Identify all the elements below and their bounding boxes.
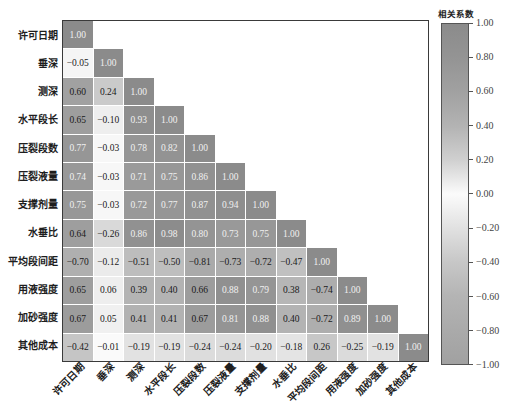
heatmap-cell: 0.81	[216, 305, 246, 332]
y-tick-label: 测深	[0, 78, 58, 106]
heatmap-cell: 1.00	[338, 277, 368, 304]
heatmap-cell: 0.24	[94, 78, 124, 105]
heatmap-cell: 0.80	[185, 220, 215, 247]
x-tick: 垂深	[94, 361, 124, 411]
plot-area: 1.00−0.051.000.600.241.000.65−0.100.931.…	[62, 20, 429, 362]
heatmap-cell: 0.41	[124, 305, 154, 332]
y-tick-label: 许可日期	[0, 22, 58, 50]
heatmap-cell: −0.01	[94, 334, 124, 361]
heatmap-cell: 0.74	[63, 163, 93, 190]
colorbar-tick-label: −0.60	[476, 292, 499, 302]
tick-mark	[469, 125, 473, 126]
x-tick: 其他成本	[397, 361, 427, 411]
y-tick-label: 垂深	[0, 50, 58, 78]
heatmap-cell: 1.00	[63, 21, 93, 48]
heatmap-cell: 0.75	[246, 220, 276, 247]
colorbar-tick-label: 1.00	[476, 18, 494, 28]
heatmap-cell: 0.75	[63, 191, 93, 218]
x-tick-label: 垂深	[95, 361, 117, 383]
y-tick-label: 压裂段数	[0, 135, 58, 163]
tick-mark	[469, 330, 473, 331]
heatmap-cell: 1.00	[368, 305, 398, 332]
heatmap-cell: −0.24	[185, 334, 215, 361]
heatmap-cell: 0.66	[185, 277, 215, 304]
x-tick-label: 许可日期	[50, 361, 86, 397]
heatmap-cell: 0.89	[338, 305, 368, 332]
x-axis-labels: 许可日期 垂深 测深 水平段长 压裂段数 压裂液量 支撑剂量 水垂比 平均段间距…	[64, 361, 428, 411]
heatmap-cell: 0.82	[155, 135, 185, 162]
heatmap-cell: −0.47	[277, 248, 307, 275]
heatmap-cell: 0.40	[277, 305, 307, 332]
y-tick-label: 支撑剂量	[0, 191, 58, 219]
heatmap-cell: 0.94	[216, 191, 246, 218]
y-tick-label: 其他成本	[0, 332, 58, 360]
heatmap-cell: 1.00	[124, 78, 154, 105]
heatmap-cell: 0.67	[185, 305, 215, 332]
heatmap-cell: −0.73	[216, 248, 246, 275]
tick-mark	[469, 159, 473, 160]
y-tick-label: 平均段间距	[0, 248, 58, 276]
colorbar-tick-label: 0.80	[476, 52, 494, 62]
heatmap-cell: 0.72	[124, 191, 154, 218]
heatmap-cell: 1.00	[246, 191, 276, 218]
heatmap-cell: −0.03	[94, 191, 124, 218]
heatmap-cell: 1.00	[277, 220, 307, 247]
y-axis-labels: 许可日期 垂深 测深 水平段长 压裂段数 压裂液量 支撑剂量 水垂比 平均段间距…	[0, 22, 58, 361]
heatmap-cell: 0.77	[63, 135, 93, 162]
colorbar-tick-label: 0.40	[476, 121, 494, 131]
tick-mark	[469, 193, 473, 194]
heatmap-cell: 0.87	[185, 191, 215, 218]
heatmap-cell: 0.38	[277, 277, 307, 304]
heatmap-cell: 1.00	[307, 248, 337, 275]
y-tick-label: 水垂比	[0, 219, 58, 247]
heatmap-cell: 0.79	[246, 277, 276, 304]
y-tick-label: 用液强度	[0, 276, 58, 304]
heatmap-cell: 0.39	[124, 277, 154, 304]
colorbar-tick-label: −0.80	[476, 326, 499, 336]
heatmap-cell: 0.98	[155, 220, 185, 247]
heatmap-cell: −0.05	[63, 49, 93, 76]
heatmap-cell: 1.00	[94, 49, 124, 76]
y-tick-label: 加砂强度	[0, 304, 58, 332]
heatmap-cell: 0.06	[94, 277, 124, 304]
tick-mark	[469, 91, 473, 92]
heatmap-cell: 1.00	[216, 163, 246, 190]
x-tick-label: 测深	[125, 361, 147, 383]
heatmap-cell: 1.00	[155, 106, 185, 133]
heatmap-cell: −0.42	[63, 334, 93, 361]
heatmap-cell: 0.71	[124, 163, 154, 190]
heatmap-cell: 0.65	[63, 277, 93, 304]
heatmap-cell: −0.20	[246, 334, 276, 361]
heatmap-cell: −0.03	[94, 135, 124, 162]
heatmap-cell: −0.72	[246, 248, 276, 275]
colorbar-tick-label: −0.40	[476, 257, 499, 267]
heatmap-cell: 0.88	[246, 305, 276, 332]
heatmap-cell: 0.67	[63, 305, 93, 332]
y-tick-label: 压裂液量	[0, 163, 58, 191]
heatmap-cell: −0.25	[338, 334, 368, 361]
tick-mark	[469, 262, 473, 263]
heatmap-cell: −0.12	[94, 248, 124, 275]
heatmap-cell: −0.19	[368, 334, 398, 361]
heatmap-cell: −0.50	[155, 248, 185, 275]
colorbar-tick-label: 0.20	[476, 155, 494, 165]
colorbar-ticks: 1.00 0.80 0.60 0.40 0.20 0.00 −0.20 −0.4…	[469, 23, 511, 365]
tick-mark	[469, 296, 473, 297]
heatmap-cell: −0.19	[124, 334, 154, 361]
heatmap-cell: −0.03	[94, 163, 124, 190]
heatmap-cell: −0.24	[216, 334, 246, 361]
colorbar-title: 相关系数	[436, 9, 476, 19]
heatmap-cell: −0.19	[155, 334, 185, 361]
tick-mark	[469, 364, 473, 365]
heatmap-cell: 0.86	[124, 220, 154, 247]
heatmap-cell: −0.18	[277, 334, 307, 361]
heatmap-cell: 0.88	[216, 277, 246, 304]
heatmap-cell: 0.65	[63, 106, 93, 133]
heatmap-cell: 1.00	[185, 135, 215, 162]
y-tick-label: 水平段长	[0, 106, 58, 134]
heatmap-cell: 0.40	[155, 277, 185, 304]
heatmap-cell: −0.72	[307, 305, 337, 332]
heatmap-cell: −0.26	[94, 220, 124, 247]
heatmap-cell: −0.70	[63, 248, 93, 275]
heatmap-cell: 0.64	[63, 220, 93, 247]
